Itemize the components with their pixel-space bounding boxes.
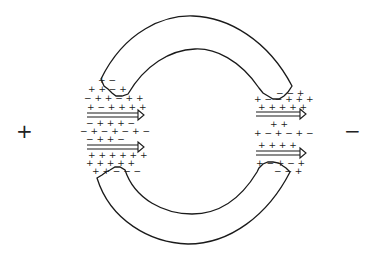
svg-text:+ + − − −: + + − − − (92, 166, 141, 176)
svg-text:− + + −: − + + − (86, 134, 125, 144)
svg-text:+ − + − + −: + − + − + − (254, 128, 314, 138)
negative-electrode-label: − (344, 119, 361, 143)
svg-text:− − +: − − + (274, 166, 302, 176)
svg-text:+ − + + + +: + − + + + + (87, 102, 147, 112)
svg-text:+ + + +: + + + + (258, 140, 297, 150)
top-arc-tube (101, 16, 292, 99)
svg-text:+ + + + +: + + + + + (258, 102, 307, 112)
left-charge-cloud: + − + + − + − + + − + + + − + + + + − + … (80, 75, 150, 176)
right-charge-cloud: − − + + − − + + + + + + + + + + + − + − … (254, 88, 314, 176)
positive-electrode-label: + (16, 119, 33, 143)
